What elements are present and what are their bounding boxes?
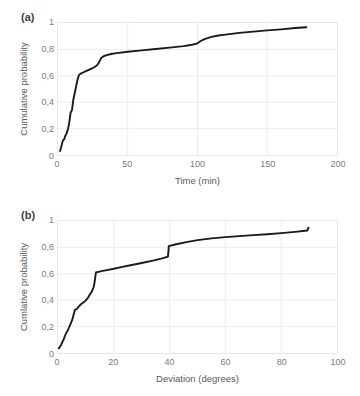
x-tick-label: 60 [221, 357, 231, 367]
y-tick-label: 0,8 [41, 242, 54, 252]
figure-cumulative-probability-charts: (a) Cumulative probability 00,20,40,60,8… [0, 0, 360, 396]
x-tick-label: 150 [260, 159, 275, 169]
y-axis-label-wrap-a: Cumulative probability [18, 22, 32, 156]
plot-svg-a [58, 23, 337, 155]
y-axis-ticks-a: 00,20,40,60,81 [33, 22, 54, 156]
y-tick-label: 0 [49, 151, 54, 161]
x-tick-label: 100 [190, 159, 205, 169]
y-tick-label: 0 [49, 349, 54, 359]
y-tick-label: 0,4 [41, 97, 54, 107]
y-tick-label: 0,8 [41, 44, 54, 54]
chart-panel-b: (b) Cumlative probability 00,20,40,60,81… [0, 198, 360, 396]
x-tick-label: 50 [122, 159, 132, 169]
plot-svg-b [58, 221, 337, 353]
x-axis-ticks-b: 020406080100 [57, 357, 338, 371]
y-axis-label-b: Cumlative probability [18, 220, 32, 354]
y-tick-label: 0,6 [41, 71, 54, 81]
y-tick-label: 0,2 [41, 124, 54, 134]
y-tick-label: 1 [49, 17, 54, 27]
y-tick-label: 1 [49, 215, 54, 225]
x-tick-label: 200 [330, 159, 345, 169]
y-axis-label-a: Cumulative probability [18, 22, 32, 156]
plot-area-a [57, 22, 338, 156]
y-axis-label-wrap-b: Cumlative probability [18, 220, 32, 354]
x-axis-ticks-a: 050100150200 [57, 159, 338, 173]
y-axis-ticks-b: 00,20,40,60,81 [33, 220, 54, 354]
x-tick-label: 0 [54, 357, 59, 367]
data-curve-b [59, 228, 309, 349]
x-tick-label: 20 [108, 357, 118, 367]
y-tick-label: 0,6 [41, 269, 54, 279]
plot-area-b [57, 220, 338, 354]
chart-panel-a: (a) Cumulative probability 00,20,40,60,8… [0, 0, 360, 198]
data-curve-a [60, 27, 306, 151]
x-axis-label-a: Time (min) [57, 175, 338, 186]
y-tick-label: 0,2 [41, 322, 54, 332]
y-tick-label: 0,4 [41, 295, 54, 305]
x-tick-label: 80 [277, 357, 287, 367]
x-tick-label: 40 [164, 357, 174, 367]
x-axis-label-b: Deviation (degrees) [57, 373, 338, 384]
x-tick-label: 100 [330, 357, 345, 367]
x-tick-label: 0 [54, 159, 59, 169]
